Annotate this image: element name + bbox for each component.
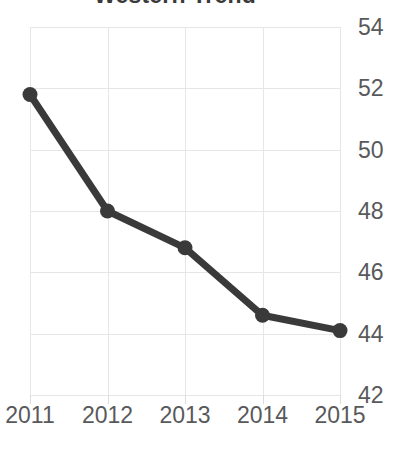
- data-point: [100, 204, 115, 219]
- x-axis-tick-mark: [30, 395, 31, 404]
- plot-area: [30, 27, 340, 395]
- x-axis-tick-mark: [108, 395, 109, 404]
- y-axis-tick-label: 50: [358, 138, 406, 161]
- y-axis-tick-label: 54: [358, 16, 406, 39]
- y-axis-tick-label: 46: [358, 261, 406, 284]
- x-axis-tick-label: 2014: [218, 404, 308, 427]
- x-axis-tick-label: 2015: [295, 404, 385, 427]
- x-axis-tick-mark: [185, 395, 186, 404]
- gridline-vertical: [340, 27, 341, 395]
- chart-title: Western Trend: [0, 0, 350, 9]
- y-axis-tick-label: 44: [358, 322, 406, 345]
- x-axis-tick-label: 2012: [63, 404, 153, 427]
- y-axis-tick-label: 52: [358, 77, 406, 100]
- x-axis-tick-mark: [263, 395, 264, 404]
- x-axis-tick-label: 2013: [140, 404, 230, 427]
- x-axis-tick-mark: [340, 395, 341, 404]
- data-point: [23, 87, 38, 102]
- data-series-line: [30, 27, 340, 395]
- y-axis-tick-label: 48: [358, 200, 406, 223]
- data-point: [255, 308, 270, 323]
- data-point: [178, 240, 193, 255]
- line-chart: Western Trend 54525048464442 20112012201…: [0, 0, 406, 457]
- data-point-markers: [23, 87, 348, 338]
- data-point: [333, 323, 348, 338]
